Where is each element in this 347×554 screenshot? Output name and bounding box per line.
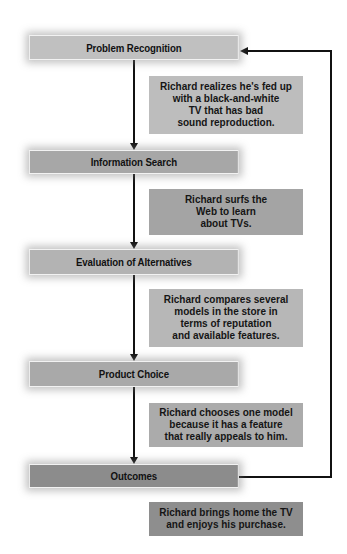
connector-1-2	[133, 60, 135, 144]
description-outcomes: Richard brings home the TV and enjoys hi…	[149, 502, 303, 536]
description-evaluation: Richard compares several models in the s…	[149, 289, 303, 347]
arrow-down-icon	[130, 457, 138, 464]
arrow-down-icon	[130, 242, 138, 249]
stage-label: Product Choice	[99, 368, 169, 380]
arrow-down-icon	[130, 143, 138, 150]
description-product-choice: Richard chooses one model because it has…	[149, 403, 303, 447]
description-information-search: Richard surfs the Web to learn about TVs…	[149, 189, 303, 235]
stage-label: Information Search	[91, 156, 177, 168]
connector-2-3	[133, 174, 135, 243]
stage-evaluation-of-alternatives: Evaluation of Alternatives	[29, 249, 239, 275]
stage-problem-recognition: Problem Recognition	[29, 35, 239, 60]
connector-4-5	[133, 387, 135, 458]
feedback-line-right	[330, 50, 332, 478]
feedback-line-bottom	[239, 476, 331, 478]
stage-label: Outcomes	[111, 470, 158, 482]
stage-outcomes: Outcomes	[29, 464, 239, 488]
stage-label: Problem Recognition	[86, 42, 181, 54]
stage-information-search: Information Search	[29, 150, 239, 174]
feedback-line-top	[247, 50, 331, 52]
connector-3-4	[133, 275, 135, 355]
stage-product-choice: Product Choice	[29, 361, 239, 387]
stage-label: Evaluation of Alternatives	[76, 256, 192, 268]
description-problem-recognition: Richard realizes he's fed up with a blac…	[149, 76, 303, 134]
arrow-down-icon	[130, 354, 138, 361]
arrow-left-icon	[240, 47, 248, 55]
